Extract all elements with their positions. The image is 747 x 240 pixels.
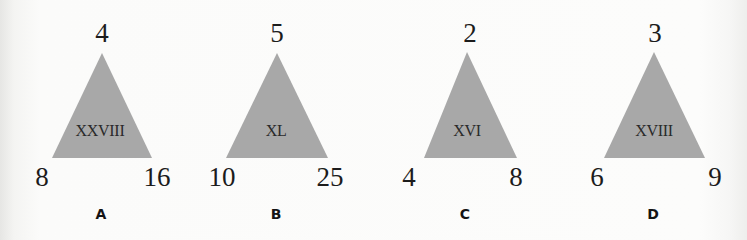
triangle-c-center-numeral: XVI xyxy=(453,123,481,139)
triangle-b-center-numeral: XL xyxy=(266,123,287,139)
triangle-a-bottom-right-number: 16 xyxy=(144,164,171,191)
triangle-b-top-number: 5 xyxy=(270,20,284,47)
triangle-a-top-number: 4 xyxy=(95,20,109,47)
triangles-graphic xyxy=(0,0,747,235)
triangle-b-bottom-left-number: 10 xyxy=(209,164,236,191)
triangle-d-label: D xyxy=(647,207,659,221)
triangle-b-label: B xyxy=(271,207,282,221)
triangle-c-shape xyxy=(424,52,517,158)
triangle-a-center-numeral: XXVIII xyxy=(76,123,125,139)
triangle-puzzle: 4 XXVIII 8 16 A 5 XL 10 25 B 2 XVI 4 8 C… xyxy=(0,0,747,235)
triangle-a-bottom-left-number: 8 xyxy=(35,164,49,191)
triangle-a-shape xyxy=(52,53,152,158)
triangle-c-bottom-left-number: 4 xyxy=(402,164,416,191)
triangle-b-bottom-right-number: 25 xyxy=(317,164,344,191)
triangle-d-bottom-right-number: 9 xyxy=(708,164,722,191)
triangle-d-top-number: 3 xyxy=(648,20,662,47)
triangle-a-label: A xyxy=(96,207,107,221)
triangle-c-top-number: 2 xyxy=(463,20,477,47)
triangle-d-center-numeral: XVIII xyxy=(635,123,673,139)
triangle-c-bottom-right-number: 8 xyxy=(509,164,523,191)
triangle-b-shape xyxy=(226,53,328,158)
triangle-c-label: C xyxy=(460,207,470,221)
triangle-d-shape xyxy=(604,52,705,158)
triangle-d-bottom-left-number: 6 xyxy=(590,164,604,191)
